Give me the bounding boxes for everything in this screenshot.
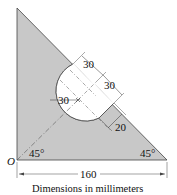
dim-base-160: 160 <box>80 168 97 180</box>
caption: Dimensions in millimeters <box>32 183 143 194</box>
dim-lower-20: 20 <box>115 121 127 133</box>
dim-upper-30a: 30 <box>83 58 95 70</box>
dim-upper-30b: 30 <box>104 79 116 91</box>
angle-right: 45° <box>140 147 155 159</box>
dim-radius-30: 30 <box>58 94 70 106</box>
plate-diagram: 30 30 30 20 45° 45° O 160 Dimensions in … <box>0 0 177 195</box>
angle-left: 45° <box>29 147 44 159</box>
origin-label: O <box>7 155 15 167</box>
